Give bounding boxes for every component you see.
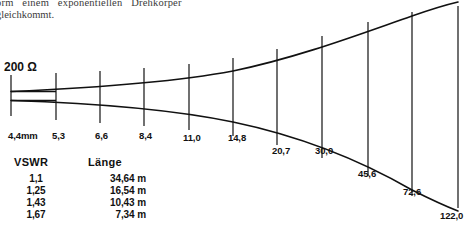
cell-laenge: 7,34 m <box>58 208 146 220</box>
cell-vswr: 1,67 <box>14 208 58 220</box>
axis-label-1: 5,3 <box>52 130 65 141</box>
upper-flare-curve <box>11 2 458 92</box>
header-vswr: VSWR <box>14 156 58 172</box>
impedance-label: 200 Ω <box>4 60 37 74</box>
axis-label-7: 30,0 <box>315 145 333 156</box>
table-header-row: VSWR Länge <box>14 156 146 172</box>
axis-label-9: 72,6 <box>403 186 421 197</box>
cell-laenge: 34,64 m <box>58 172 146 184</box>
vswr-length-table: VSWR Länge 1,134,64 m1,2516,54 m1,4310,4… <box>14 156 146 220</box>
axis-label-6: 20,7 <box>272 145 290 156</box>
header-laenge: Länge <box>58 156 146 172</box>
table-row: 1,134,64 m <box>14 172 146 184</box>
axis-label-3: 8,4 <box>139 130 152 141</box>
axis-label-4: 11,0 <box>183 132 201 143</box>
table: VSWR Länge 1,134,64 m1,2516,54 m1,4310,4… <box>14 156 146 220</box>
cell-vswr: 1,25 <box>14 184 58 196</box>
axis-label-10: 122,0 <box>440 210 463 221</box>
table-row: 1,677,34 m <box>14 208 146 220</box>
page-root: orm einem exponentiellen Drehkörper glei… <box>0 0 472 230</box>
cell-vswr: 1,43 <box>14 196 58 208</box>
cell-laenge: 10,43 m <box>58 196 146 208</box>
axis-label-8: 45,6 <box>358 168 376 179</box>
table-body: 1,134,64 m1,2516,54 m1,4310,43 m1,677,34… <box>14 172 146 220</box>
axis-label-0: 4,4mm <box>8 130 38 141</box>
table-row: 1,2516,54 m <box>14 184 146 196</box>
table-row: 1,4310,43 m <box>14 196 146 208</box>
axis-label-2: 6,6 <box>95 130 108 141</box>
cell-vswr: 1,1 <box>14 172 58 184</box>
axis-label-5: 14,8 <box>228 132 246 143</box>
cell-laenge: 16,54 m <box>58 184 146 196</box>
